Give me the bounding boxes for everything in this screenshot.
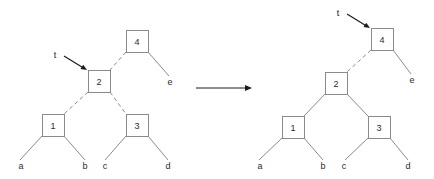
left-tree: 4213abcdet bbox=[18, 31, 172, 172]
tree-edge-edge-3-c bbox=[345, 138, 368, 160]
tree-edge-edge-2-3 bbox=[110, 92, 126, 114]
tree-leaf-label-leaf-b: b bbox=[82, 161, 87, 171]
tree-edge-edge-3-d bbox=[390, 138, 408, 160]
pointer-arrow-shaft bbox=[347, 14, 366, 25]
tree-edge-edge-4-e bbox=[393, 50, 411, 74]
tree-leaf-label-leaf-b: b bbox=[320, 161, 325, 171]
tree-edge-edge-2-3 bbox=[347, 94, 368, 116]
tree-edge-edge-1-b bbox=[64, 136, 85, 160]
tree-edge-edge-1-a bbox=[259, 138, 282, 160]
tree-node-label-node-3: 3 bbox=[376, 123, 381, 133]
tree-edge-edge-4-e bbox=[148, 52, 169, 76]
tree-node-label-node-2: 2 bbox=[96, 77, 101, 87]
tree-leaf-label-leaf-c: c bbox=[103, 161, 108, 171]
tree-node-label-node-2: 2 bbox=[333, 79, 338, 89]
right-tree: 4213abcdet bbox=[257, 8, 414, 171]
tree-node-label-node-1: 1 bbox=[290, 123, 295, 133]
tree-node-label-node-3: 3 bbox=[134, 121, 139, 131]
tree-node-label-node-1: 1 bbox=[50, 121, 55, 131]
tree-leaf-label-leaf-d: d bbox=[405, 161, 410, 171]
tree-edge-edge-1-a bbox=[20, 136, 42, 160]
tree-leaf-label-leaf-e: e bbox=[167, 77, 172, 87]
tree-edge-edge-1-b bbox=[304, 138, 323, 160]
tree-edge-edge-4-2 bbox=[110, 52, 126, 70]
transition-arrow-head bbox=[245, 85, 252, 91]
diagram-canvas: 4213abcdet4213abcdet bbox=[0, 0, 434, 179]
tree-edge-edge-4-2 bbox=[347, 50, 371, 72]
tree-leaf-label-leaf-a: a bbox=[18, 161, 23, 171]
tree-edge-edge-2-1 bbox=[304, 94, 325, 116]
tree-leaf-label-leaf-d: d bbox=[165, 161, 170, 171]
tree-edge-edge-2-1 bbox=[64, 92, 88, 114]
tree-edge-edge-3-c bbox=[105, 136, 126, 160]
tree-edge-edge-3-d bbox=[148, 136, 168, 160]
pointer-arrow-shaft bbox=[64, 56, 83, 67]
tree-leaf-label-leaf-a: a bbox=[257, 161, 262, 171]
transition-arrow-group bbox=[196, 85, 252, 91]
tree-node-label-node-4: 4 bbox=[379, 35, 384, 45]
pointer-label-t: t bbox=[337, 8, 340, 18]
tree-leaf-label-leaf-e: e bbox=[409, 75, 414, 85]
pointer-label-t: t bbox=[54, 50, 57, 60]
tree-node-label-node-4: 4 bbox=[134, 37, 139, 47]
tree-leaf-label-leaf-c: c bbox=[342, 161, 347, 171]
tree-rotation-figure: 4213abcdet4213abcdet bbox=[0, 0, 434, 179]
